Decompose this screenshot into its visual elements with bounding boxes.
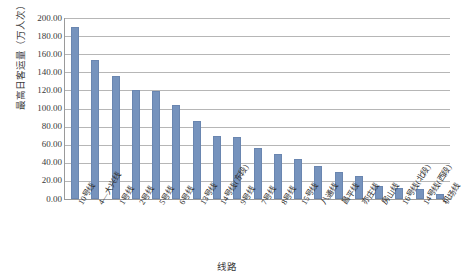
bar[interactable] <box>132 90 140 199</box>
y-axis-tick-label: 120.00 <box>18 85 62 96</box>
y-axis-tick-labels: 0.0020.0040.0060.0080.00100.00120.00140.… <box>18 12 62 205</box>
bar-slot <box>369 18 389 199</box>
plot-area <box>64 18 450 200</box>
bar-slot <box>328 18 348 199</box>
y-axis-tick-label: 20.00 <box>18 175 62 186</box>
bar[interactable] <box>152 91 160 199</box>
bar-slot <box>389 18 409 199</box>
y-axis-tick-label: 40.00 <box>18 157 62 168</box>
bar[interactable] <box>91 60 99 199</box>
bar-slot <box>187 18 207 199</box>
y-axis-tick-label: 0.00 <box>18 194 62 205</box>
bar-slot <box>268 18 288 199</box>
bar[interactable] <box>71 27 79 199</box>
bar-slot <box>65 18 85 199</box>
y-axis-tick-label: 60.00 <box>18 139 62 150</box>
y-axis-tick-label: 140.00 <box>18 67 62 78</box>
bar-slot <box>126 18 146 199</box>
bar-slot <box>308 18 328 199</box>
y-axis-tick-label: 100.00 <box>18 103 62 114</box>
bar-slot <box>85 18 105 199</box>
bar-slot <box>349 18 369 199</box>
y-axis-tick-label: 160.00 <box>18 49 62 60</box>
bar-slot <box>288 18 308 199</box>
y-axis-tick-label: 180.00 <box>18 31 62 42</box>
bar-slot <box>146 18 166 199</box>
y-axis-tick-label: 80.00 <box>18 121 62 132</box>
bar-slot <box>166 18 186 199</box>
bar[interactable] <box>172 105 180 199</box>
x-axis-title: 线路 <box>0 259 453 273</box>
bar-slot <box>247 18 267 199</box>
y-axis-tick-label: 200.00 <box>18 13 62 24</box>
bar-slot <box>207 18 227 199</box>
bar-series <box>65 18 450 199</box>
x-axis-tick-labels: 10号线4—大兴线1号线2号线5号线6号线13号线14号线(东段)9号线7号线8… <box>64 200 449 260</box>
